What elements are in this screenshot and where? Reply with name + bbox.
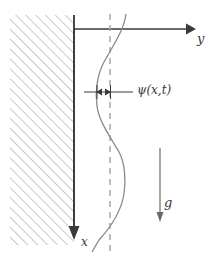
gravity-arrow bbox=[157, 148, 164, 222]
y-axis-arrow bbox=[74, 24, 196, 35]
displacement-label: ψ(x,t) bbox=[137, 84, 171, 96]
diagram-canvas bbox=[0, 0, 218, 260]
displaced-string-curve bbox=[92, 14, 126, 252]
displacement-measure-arrow bbox=[84, 85, 133, 99]
gravity-label: g bbox=[164, 196, 172, 209]
hatched-wall-region bbox=[10, 15, 74, 245]
y-axis-label: y bbox=[197, 32, 204, 45]
physics-diagram-figure: y x g ψ(x,t) bbox=[0, 0, 218, 260]
x-axis-label: x bbox=[81, 236, 88, 248]
